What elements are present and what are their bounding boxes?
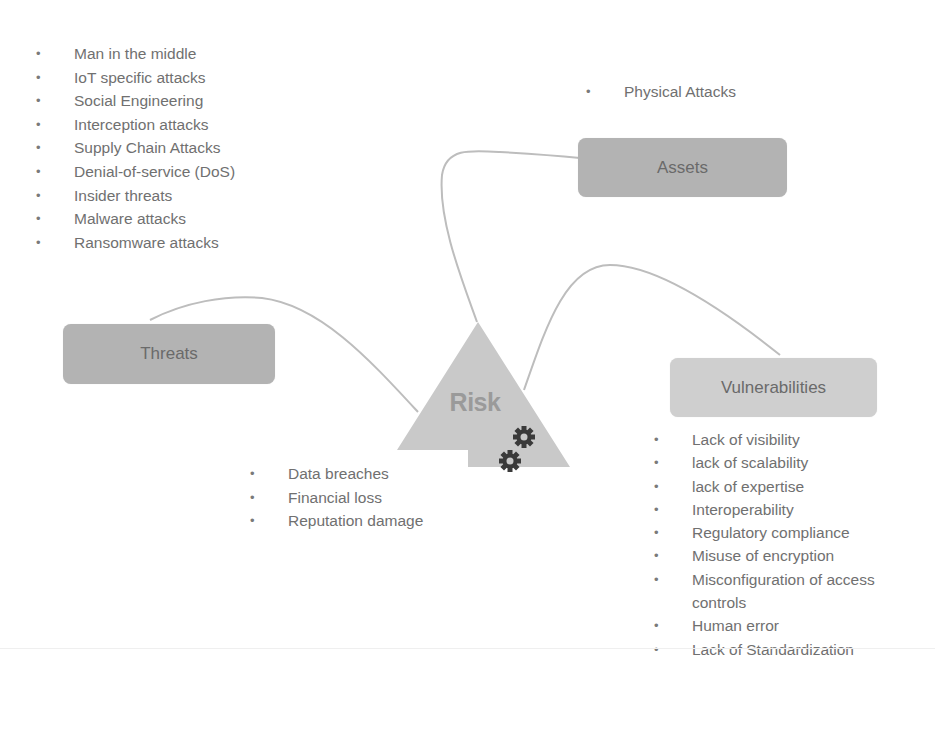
list-item: Interoperability: [640, 498, 935, 521]
list-item: Man in the middle: [22, 42, 235, 66]
list-item: Physical Attacks: [572, 80, 736, 104]
list-item: lack of scalability: [640, 451, 935, 474]
assets-node-label: Assets: [657, 158, 708, 178]
vulnerabilities-node: Vulnerabilities: [670, 358, 877, 417]
risk-label: Risk: [440, 388, 510, 417]
threats-node: Threats: [63, 324, 275, 384]
list-item: Reputation damage: [236, 509, 423, 533]
impacts-list: Data breaches Financial loss Reputation …: [236, 462, 423, 533]
list-item: Denial-of-service (DoS): [22, 160, 235, 184]
vulnerabilities-node-label: Vulnerabilities: [721, 378, 826, 398]
threats-list: Man in the middle IoT specific attacks S…: [22, 42, 235, 254]
list-item: Insider threats: [22, 184, 235, 208]
list-item: Lack of Standardization: [640, 638, 935, 661]
list-item: Financial loss: [236, 486, 423, 510]
assets-list: Physical Attacks: [572, 80, 736, 104]
list-item: Lack of visibility: [640, 428, 935, 451]
list-item: IoT specific attacks: [22, 66, 235, 90]
list-item: Malware attacks: [22, 207, 235, 231]
list-item: Data breaches: [236, 462, 423, 486]
list-item: Regulatory compliance: [640, 521, 935, 544]
connector-risk-assets: [442, 151, 580, 322]
list-item: Ransomware attacks: [22, 231, 235, 255]
list-item: Human error: [640, 614, 935, 637]
risk-diagram: Risk Assets Threats Vulnerabilities Man …: [0, 0, 935, 742]
divider-line: [0, 648, 935, 649]
list-item: Misconfiguration of access controls: [640, 568, 912, 615]
gears-icon: [499, 426, 535, 472]
assets-node: Assets: [578, 138, 787, 197]
list-item: lack of expertise: [640, 475, 935, 498]
vulnerabilities-list: Lack of visibility lack of scalability l…: [640, 428, 935, 661]
list-item: Supply Chain Attacks: [22, 136, 235, 160]
threats-node-label: Threats: [140, 344, 198, 364]
list-item: Interception attacks: [22, 113, 235, 137]
list-item: Social Engineering: [22, 89, 235, 113]
list-item: Misuse of encryption: [640, 544, 935, 567]
